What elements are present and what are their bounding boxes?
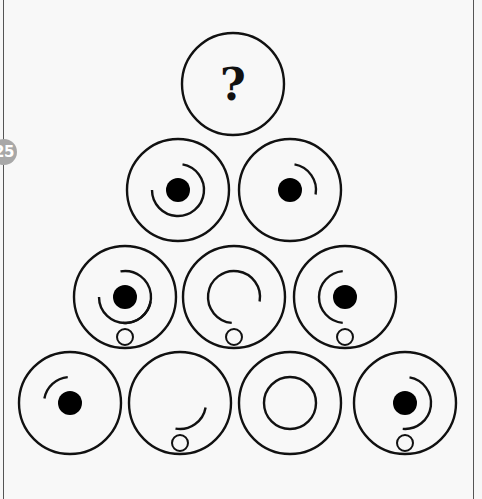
- black-dot: [393, 391, 417, 415]
- small-circle: [172, 435, 188, 451]
- puzzle-cell-r2c2: [239, 139, 341, 241]
- outer-circle: [183, 246, 285, 348]
- puzzle-cell-r3c1: [74, 246, 176, 348]
- puzzle-cell-r3c2: [183, 246, 285, 348]
- puzzle-cell-r4c3: [239, 352, 341, 454]
- puzzle-cell-r3c3: [294, 246, 396, 348]
- puzzle-cell-r4c1: [19, 352, 121, 454]
- black-dot: [113, 285, 137, 309]
- black-dot: [333, 285, 357, 309]
- black-dot: [58, 391, 82, 415]
- inner-arc: [208, 271, 260, 323]
- inner-arc: [175, 408, 205, 429]
- outer-circle: [239, 352, 341, 454]
- puzzle-cell-r4c4: [354, 352, 456, 454]
- inner-ring: [264, 377, 316, 429]
- outer-circle: [129, 352, 231, 454]
- small-circle: [117, 329, 133, 345]
- black-dot: [278, 178, 302, 202]
- puzzle-cell-r2c1: [127, 139, 229, 241]
- circle-pyramid: ?: [0, 0, 482, 499]
- small-circle: [397, 435, 413, 451]
- puzzle-cell-r4c2: [129, 352, 231, 454]
- small-circle: [226, 329, 242, 345]
- question-mark: ?: [220, 59, 246, 110]
- puzzle-cell-top: ?: [182, 33, 284, 135]
- black-dot: [166, 178, 190, 202]
- small-circle: [337, 329, 353, 345]
